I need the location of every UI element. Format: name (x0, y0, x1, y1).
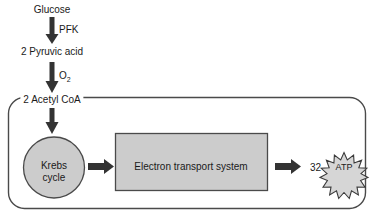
label-acetyl-coa: 2 Acetyl CoA (20, 94, 83, 105)
arrow-acetyl-to-krebs (46, 108, 59, 134)
label-pfk: PFK (59, 24, 78, 35)
label-oxygen: O2 (59, 70, 71, 85)
atp-burst-shape (320, 153, 368, 199)
label-krebs-line-2: cycle (43, 172, 66, 183)
arrow-krebs-to-ets (88, 159, 114, 174)
label-pyruvic-acid: 2 Pyruvic acid (21, 46, 83, 57)
respiration-diagram: Glucose PFK 2 Pyruvic acid O2 2 Acetyl C… (0, 0, 376, 217)
diagram-canvas (0, 0, 376, 217)
label-atp: ATP (336, 162, 353, 173)
arrow-glucose-to-pyruvic (46, 17, 59, 44)
label-krebs-line-1: Krebs (41, 160, 67, 171)
label-glucose: Glucose (34, 4, 71, 15)
label-oxygen-subscript: 2 (67, 76, 71, 83)
label-oxygen-symbol: O (59, 70, 67, 81)
label-atp-count: 32 (310, 162, 321, 173)
label-krebs-cycle: Krebscycle (41, 160, 67, 184)
label-electron-transport-system: Electron transport system (134, 161, 247, 172)
arrow-pyruvic-to-acetyl (46, 62, 59, 93)
arrow-ets-to-atp (275, 159, 301, 174)
